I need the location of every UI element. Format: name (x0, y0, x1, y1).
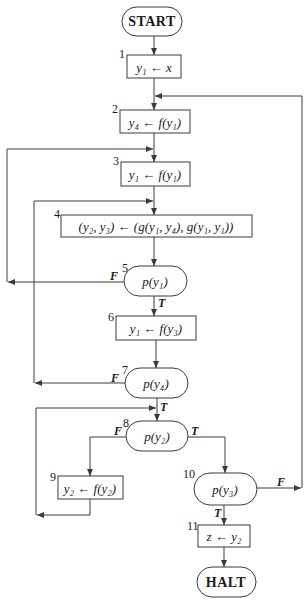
edge-8-false (90, 437, 126, 476)
node-9-number: 9 (50, 471, 56, 483)
flowchart-canvas: START HALT y₁ ← x y₄ ← f(y₁) y₁ ← f(y₁) … (0, 0, 308, 602)
node-2-label: y₄ ← f(y₁) (129, 116, 181, 129)
halt-label: HALT (206, 576, 246, 590)
start-label: START (128, 15, 176, 29)
node-5-false-label: F (110, 270, 118, 282)
node-1-label: y₁ ← x (136, 61, 172, 74)
node-6-label: y₁ ← f(y₃) (130, 322, 182, 335)
node-9-label: y₂ ← f(y₂) (64, 482, 116, 495)
node-5-true-label: T (158, 297, 165, 309)
node-7-true-label: T (160, 401, 167, 413)
node-8-false-label: F (114, 425, 122, 437)
node-5-number: 5 (122, 262, 128, 274)
node-4-number: 4 (54, 208, 60, 220)
node-8-true-label: T (191, 425, 198, 437)
node-8-number: 8 (123, 417, 129, 429)
node-4-label: (y₂, y₃) ← (g(y₁, y₄), g(y₁, y₁)) (79, 220, 234, 233)
node-11-number: 11 (187, 520, 199, 532)
node-2-number: 2 (112, 103, 118, 115)
node-10-true-label: T (214, 507, 221, 519)
node-7-false-label: F (111, 372, 119, 384)
edge-9-return (37, 499, 90, 515)
node-7-label: p(y₄) (143, 377, 168, 390)
node-5-label: p(y₁) (142, 275, 167, 288)
node-10-label: p(y₃) (212, 483, 237, 496)
flowchart-graphics (0, 0, 308, 602)
node-10-number: 10 (183, 468, 195, 480)
node-6-number: 6 (108, 311, 114, 323)
node-7-number: 7 (122, 364, 128, 376)
node-3-label: y₁ ← f(y₁) (129, 168, 181, 181)
node-8-label: p(y₂) (144, 430, 169, 443)
node-3-number: 3 (113, 155, 119, 167)
node-11-label: z ← y₂ (207, 530, 242, 543)
node-10-false-label: F (277, 476, 285, 488)
node-1-number: 1 (119, 48, 125, 60)
